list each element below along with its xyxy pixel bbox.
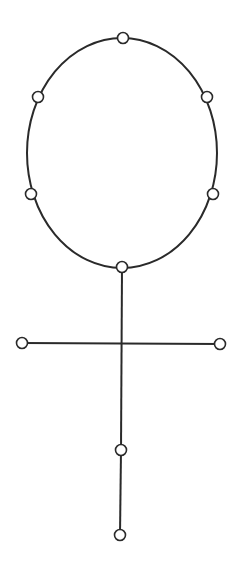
oval-ring-edge (27, 38, 217, 268)
node-crossbar-left (17, 338, 28, 349)
node-stem-bottom (115, 530, 126, 541)
edge-stem-middle-to-stem-bottom (120, 450, 121, 535)
node-ring-lower-right (208, 189, 219, 200)
edges-group (22, 267, 220, 535)
edge-ring-bottom-to-stem-middle (121, 267, 122, 450)
node-ring-lower-left (26, 189, 37, 200)
graph-diagram (0, 0, 244, 571)
edge-crossbar-left-to-crossbar-right (22, 343, 220, 344)
node-ring-top (118, 33, 129, 44)
node-crossbar-right (215, 339, 226, 350)
node-ring-upper-right (202, 92, 213, 103)
node-ring-bottom (117, 262, 128, 273)
node-ring-upper-left (33, 92, 44, 103)
node-stem-middle (116, 445, 127, 456)
